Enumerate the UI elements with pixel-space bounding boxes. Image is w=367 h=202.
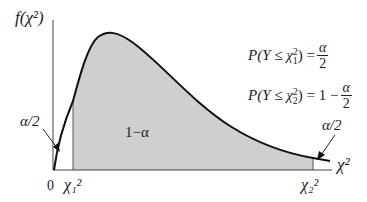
right-tail-label: α/2 xyxy=(322,117,342,134)
formula-lower-num: α xyxy=(317,40,328,56)
formula-lower-den: 2 xyxy=(317,56,328,71)
lower-critical-label: χ₁² xyxy=(64,176,81,194)
left-tail-arrow xyxy=(43,129,57,148)
formula-lower-rhs: ) = xyxy=(298,47,315,64)
formula-upper-rhs: ) = 1 − xyxy=(298,87,339,104)
x-axis-label: χ² xyxy=(337,155,350,175)
right-tail-arrow xyxy=(321,135,335,155)
upper-critical-label: χ₂² xyxy=(301,176,318,194)
formula-upper-den: 2 xyxy=(341,96,352,111)
formula-upper: P(Y ≤ χ22) = 1 − α2 xyxy=(248,80,352,111)
formula-lower-lhs: P(Y ≤ χ xyxy=(248,47,293,64)
formula-lower-fraction: α2 xyxy=(317,40,328,71)
formula-upper-num: α xyxy=(341,80,352,96)
origin-label: 0 xyxy=(47,178,54,194)
formula-upper-fraction: α2 xyxy=(341,80,352,111)
y-axis-label: f(χ²) xyxy=(15,8,44,28)
formula-upper-lhs: P(Y ≤ χ xyxy=(248,87,293,104)
left-tail-label: α/2 xyxy=(20,113,40,130)
formula-lower: P(Y ≤ χ21) = α2 xyxy=(248,40,328,71)
center-region-label: 1−α xyxy=(125,124,149,141)
